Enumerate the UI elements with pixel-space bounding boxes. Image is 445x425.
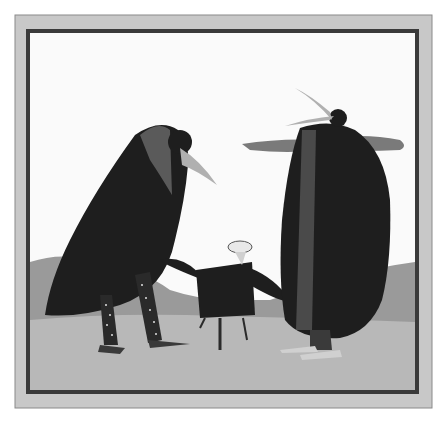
- illustration: [0, 0, 445, 425]
